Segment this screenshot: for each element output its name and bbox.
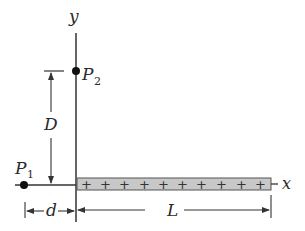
plus-charge: + [177, 177, 188, 192]
plus-charge: + [236, 177, 247, 192]
plus-charge: + [81, 177, 92, 192]
x-axis-label: x [282, 174, 291, 193]
plus-charge: + [196, 177, 207, 192]
p1-label: P [14, 158, 27, 178]
plus-charge: + [139, 177, 150, 192]
charged-rod-diagram: y + + + + + + + + + + x P 2 P 1 D d L [0, 0, 305, 231]
y-axis-label: y [68, 6, 79, 26]
D-label: D [43, 114, 58, 134]
d-label: d [46, 200, 57, 220]
point-p2 [72, 67, 80, 75]
plus-charge: + [255, 177, 266, 192]
point-p1 [20, 181, 28, 189]
plus-charge: + [216, 177, 227, 192]
L-label: L [166, 200, 178, 220]
plus-charge: + [158, 177, 169, 192]
plus-charge: + [100, 177, 111, 192]
p2-subscript: 2 [94, 75, 101, 88]
p2-label: P [81, 64, 94, 84]
p1-subscript: 1 [27, 168, 34, 181]
plus-charge: + [119, 177, 130, 192]
